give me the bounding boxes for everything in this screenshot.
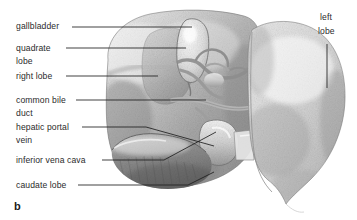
label-left-lobe-line1: left [320,13,332,22]
label-hepatic-portal-vein-line1: hepatic portal [16,123,69,132]
label-left-lobe-line2: lobe [318,27,335,36]
figure-label: b [14,200,21,212]
label-quadrate-lobe-line1: quadrate [16,44,51,53]
label-quadrate-lobe-line2: lobe [16,57,33,66]
label-common-bile-duct-line1: common bile [16,96,66,105]
label-hepatic-portal-vein-line2: vein [16,136,32,145]
label-common-bile-duct-line2: duct [16,109,33,118]
label-caudate-lobe: caudate lobe [16,181,66,190]
label-right-lobe: right lobe [16,72,52,81]
label-gallbladder: gallbladder [16,22,59,31]
label-inferior-vena-cava: inferior vena cava [16,156,86,165]
